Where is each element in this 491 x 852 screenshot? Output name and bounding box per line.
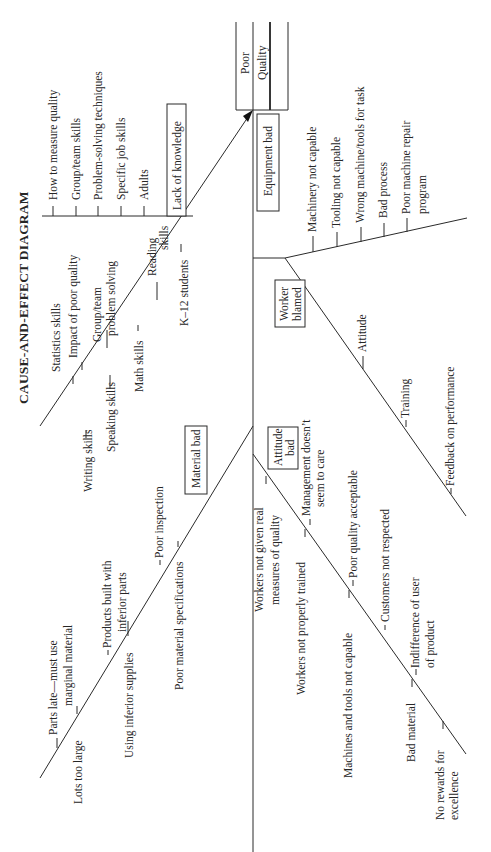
category-label-lack-of-knowledge: Lack of knowledge bbox=[171, 121, 184, 210]
cause-machines-tools-not-capable: Machines and tools not capable bbox=[342, 633, 355, 778]
arrowhead-icon bbox=[243, 110, 253, 122]
cause-bad-material: Bad material bbox=[405, 703, 417, 762]
cause-no-rewards-2: excellence bbox=[448, 771, 460, 820]
diagram-title: CAUSE-AND-EFFECT DIAGRAM bbox=[16, 191, 31, 404]
branch-equipment-bad: Equipment bad Machinery not capable Tool… bbox=[253, 86, 467, 258]
category-label-worker-1: Worker bbox=[278, 287, 290, 321]
cause-management-1: Management doesn’t bbox=[300, 419, 313, 516]
branch-material-bad: Material bad Parts late—must use margina… bbox=[40, 426, 253, 804]
cause-group-team-skills: Group/team skills bbox=[70, 117, 83, 200]
category-label-bad: bad bbox=[284, 439, 296, 456]
cause-bad-process: Bad process bbox=[377, 162, 390, 218]
cause-tooling-not-capable: Tooling not capable bbox=[330, 137, 343, 228]
category-label-worker-2: blamed bbox=[291, 287, 303, 321]
cause-lots-too-large: Lots too large bbox=[72, 740, 85, 804]
cause-using-inferior-supplies: Using inferior supplies bbox=[123, 652, 136, 758]
cause-poor-machine-repair-1: Poor machine repair bbox=[400, 121, 413, 214]
cause-poor-machine-repair-2: program bbox=[416, 175, 429, 214]
cause-writing-skills: Writing skills bbox=[82, 429, 95, 492]
cause-poor-material-specifications: Poor material specifications bbox=[173, 561, 186, 690]
cause-workers-not-given-measures-1: Workers not given real bbox=[253, 507, 266, 612]
cause-poor-quality-acceptable: Poor quality acceptable bbox=[347, 470, 360, 578]
cause-group-team-1: Group/team bbox=[91, 287, 104, 342]
cause-impact-of-poor-quality: Impact of poor quality bbox=[67, 255, 80, 358]
branch-lack-of-knowledge: How to measure quality Group/team skills… bbox=[40, 71, 253, 492]
cause-specific-job-skills: Specific job skills bbox=[115, 117, 128, 200]
cause-feedback-on-performance: Feedback on performance bbox=[444, 367, 457, 486]
cause-management-2: seem to care bbox=[314, 450, 326, 507]
cause-reading-skills-2: skills bbox=[158, 225, 170, 250]
cause-k12-students: K–12 students bbox=[178, 259, 190, 326]
cause-parts-late-2: marginal material bbox=[62, 625, 75, 706]
cause-indifference-1: Indifference of user bbox=[409, 577, 421, 668]
category-label-equipment-bad: Equipment bad bbox=[262, 126, 275, 196]
cause-parts-late-1: Parts late—must use bbox=[47, 640, 59, 735]
cause-speaking-skills: Speaking skills bbox=[105, 382, 118, 452]
effect-label-poor: Poor bbox=[239, 52, 251, 74]
cause-math-skills: Math skills bbox=[133, 340, 145, 392]
category-label-material-bad: Material bad bbox=[190, 429, 202, 488]
cause-machinery-not-capable: Machinery not capable bbox=[306, 127, 319, 232]
cause-attitude: Attitude bbox=[356, 314, 368, 352]
cause-poor-inspection: Poor inspection bbox=[153, 486, 166, 558]
cause-no-rewards-1: No rewards for bbox=[434, 750, 446, 820]
cause-indifference-2: of product bbox=[424, 620, 437, 668]
cause-adults: Adults bbox=[138, 169, 150, 200]
cause-workers-not-properly-trained: Workers not properly trained bbox=[295, 562, 308, 695]
cause-products-built-1: Products built with bbox=[101, 560, 113, 648]
cause-products-built-2: inferior parts bbox=[116, 572, 129, 632]
effect-label-quality: Quality bbox=[256, 45, 269, 80]
cause-how-to-measure-quality: How to measure quality bbox=[47, 90, 60, 200]
cause-and-effect-diagram: CAUSE-AND-EFFECT DIAGRAM Poor Quality Ho… bbox=[0, 0, 491, 852]
category-label-attitude: Attitude bbox=[272, 428, 284, 466]
cause-statistics-skills: Statistics skills bbox=[50, 303, 62, 372]
cause-training: Training bbox=[399, 379, 412, 418]
branch-attitude-bad: Attitude bad Workers not given real meas… bbox=[253, 419, 466, 820]
cause-workers-not-given-measures-2: measures of quality bbox=[269, 515, 282, 605]
cause-problem-solving-techniques: Problem-solving techniques bbox=[92, 71, 105, 200]
cause-group-team-2: problem solving bbox=[105, 261, 118, 336]
cause-wrong-machine-tools: Wrong machine/tools for task bbox=[354, 86, 367, 223]
cause-customers-not-respected: Customers not respected bbox=[379, 509, 392, 622]
